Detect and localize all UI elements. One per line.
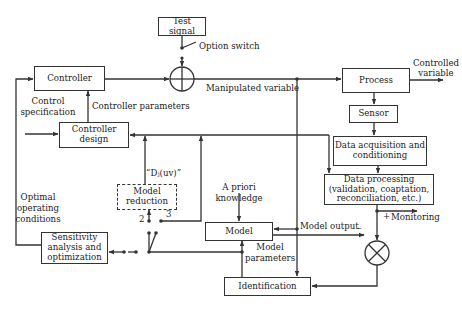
manipulated-variable-label: Manipulated variable xyxy=(206,84,299,94)
data-processing-block: Data processing (validation, coaptation,… xyxy=(324,174,434,205)
control-specification-label-2: specification xyxy=(18,108,78,118)
process-label: Process xyxy=(359,76,393,86)
model-reduction-block: Model reduction xyxy=(117,184,177,210)
test-signal-label: Test signal xyxy=(159,17,205,37)
controlled-variable-label-2: variable xyxy=(412,69,460,79)
plus-sign-label: + xyxy=(383,212,390,222)
model-label: Model xyxy=(225,227,252,237)
controller-design-block: Controller design xyxy=(59,122,129,148)
a-priori-label-1: A priori xyxy=(213,183,265,193)
controller-label: Controller xyxy=(47,74,92,84)
controller-parameters-label: Controller parameters xyxy=(92,102,190,112)
test-signal-block: Test signal xyxy=(158,17,206,36)
optimal-conditions-label-1: Optimal xyxy=(14,193,62,203)
sensor-label: Sensor xyxy=(358,109,388,119)
optimal-conditions-label-2: operating xyxy=(14,204,62,214)
a-priori-label-2: knowledge xyxy=(213,194,265,204)
data-processing-line-3: reconciliation, etc.) xyxy=(337,194,422,204)
optimal-conditions-label-3: conditions xyxy=(14,215,62,225)
identification-label: Identification xyxy=(238,282,296,292)
data-acquisition-line-2: conditioning xyxy=(353,151,407,161)
identification-block: Identification xyxy=(224,277,311,296)
model-parameters-label-1: Model xyxy=(244,243,296,253)
control-specification-label-1: Control xyxy=(18,97,78,107)
switch-position-3-label: 3 xyxy=(166,210,171,220)
comparator-junction xyxy=(365,241,389,265)
sensor-block: Sensor xyxy=(349,105,398,123)
model-block: Model xyxy=(205,222,273,241)
sensitivity-block: Sensitivity analysis and optimization xyxy=(41,232,108,264)
block-diagram: Test signal Controller Process Sensor Da… xyxy=(0,0,462,313)
summing-junction xyxy=(170,67,194,91)
model-output-label: Model output xyxy=(300,222,359,232)
model-parameters-label-2: parameters xyxy=(244,254,296,264)
model-reduction-line-2: reduction xyxy=(126,197,168,207)
sensitivity-line-3: optimization xyxy=(47,253,101,263)
data-acquisition-block: Data acquisition and conditioning xyxy=(333,136,427,166)
monitoring-label: Monitoring xyxy=(391,213,440,223)
controller-block: Controller xyxy=(34,66,105,91)
process-block: Process xyxy=(342,68,410,93)
minus-sign-label: – xyxy=(357,224,361,234)
d-uv-label: “Dⱼ(uv)” xyxy=(146,169,181,179)
switch-position-2-label: 2 xyxy=(139,215,144,225)
controller-design-line-2: design xyxy=(80,135,109,145)
option-switch-label: Option switch xyxy=(199,42,260,52)
